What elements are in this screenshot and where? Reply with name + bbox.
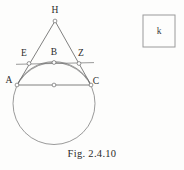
point-marker-Z [77,62,81,66]
point-label-A: A [6,75,13,85]
point-marker-E [27,62,31,66]
point-marker-B [52,61,56,65]
circle-k [13,63,95,145]
figure-screenshot: H E B Z A C k Fig. 2.4.10 [0,0,184,170]
geometry-figure: H E B Z A C k [0,0,184,170]
legend-box-label-k: k [157,26,162,36]
point-marker-A [15,83,19,87]
figure-caption: Fig. 2.4.10 [0,148,184,159]
point-label-H: H [52,5,59,15]
point-marker-H [53,19,57,23]
point-marker-center [52,83,56,87]
point-label-C: C [93,76,99,86]
point-label-Z: Z [78,48,84,58]
point-label-B: B [51,47,57,57]
segment-HC [55,21,91,85]
point-label-E: E [21,48,27,58]
